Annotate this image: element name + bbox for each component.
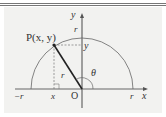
radius-label: r (61, 70, 65, 80)
point-p (52, 43, 55, 46)
origin-label: O (71, 90, 78, 101)
unit-semicircle-diagram: P(x, y) y r y r θ −r x O r x (0, 0, 166, 117)
point-label: P(x, y) (26, 31, 56, 44)
neg-r-label: −r (14, 91, 24, 101)
top-r-label: r (74, 24, 78, 34)
y-axis-arrow-icon (80, 13, 84, 18)
pos-r-label: r (130, 91, 134, 101)
point-y-label: y (83, 40, 89, 51)
point-x-label: x (50, 91, 55, 101)
x-axis-label: x (141, 90, 147, 101)
radius-segment (54, 45, 82, 89)
right-angle-mark (54, 84, 59, 89)
angle-label: θ (91, 67, 96, 78)
diagram-frame: P(x, y) y r y r θ −r x O r x (0, 0, 166, 117)
y-axis-label: y (70, 9, 76, 20)
